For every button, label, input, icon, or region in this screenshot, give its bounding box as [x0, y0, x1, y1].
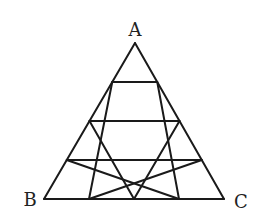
vertex-label-a: A [128, 19, 143, 40]
grid-line-parallel-ac [89, 82, 112, 199]
vertex-label-b: B [23, 189, 36, 210]
triangle-grid [44, 43, 224, 199]
triangle-diagram: A B C [0, 0, 265, 224]
vertex-label-c: C [234, 191, 248, 212]
